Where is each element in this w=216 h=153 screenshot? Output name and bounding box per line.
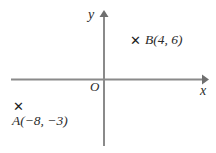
y-axis-label: y xyxy=(88,8,94,22)
point-a-x-marker-icon: ✕ xyxy=(13,100,24,113)
origin-label: O xyxy=(90,80,99,93)
x-axis-label: x xyxy=(200,84,206,98)
axes-graphic xyxy=(0,0,216,153)
point-a-label: A(−8, −3) xyxy=(12,114,68,128)
point-b-label: B(4, 6) xyxy=(145,33,183,47)
y-axis-arrowhead xyxy=(100,10,109,17)
point-b-x-marker-icon: ✕ xyxy=(130,34,141,47)
coordinate-plane-figure: y x O ✕ B(4, 6) ✕ A(−8, −3) xyxy=(0,0,216,153)
